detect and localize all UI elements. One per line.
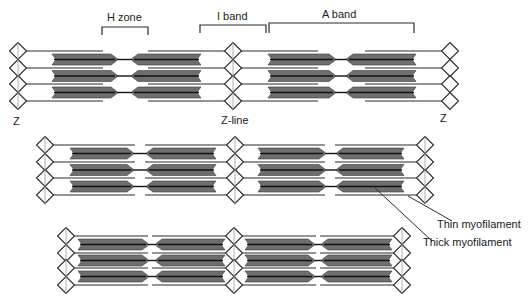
- z-right-label: Z: [440, 113, 447, 124]
- thick-myofilament-label: Thick myofilament: [423, 237, 512, 248]
- z-disc-diamond: [442, 43, 459, 60]
- z-disc-diamond: [442, 60, 459, 77]
- h-zone-bracket: [102, 27, 148, 35]
- sarcomere-diagram: [0, 0, 531, 299]
- z-disc-diamond: [442, 76, 459, 93]
- i-band-label: I band: [217, 11, 248, 22]
- a-band-label: A band: [322, 9, 356, 20]
- z-line-label: Z-line: [221, 115, 249, 126]
- z-left-label: Z: [13, 116, 20, 127]
- a-band-bracket: [269, 23, 414, 33]
- thin-myofilament-label: Thin myofilament: [437, 219, 521, 230]
- i-band-bracket: [200, 25, 266, 33]
- h-zone-label: H zone: [107, 12, 142, 23]
- z-disc-diamond: [442, 93, 459, 110]
